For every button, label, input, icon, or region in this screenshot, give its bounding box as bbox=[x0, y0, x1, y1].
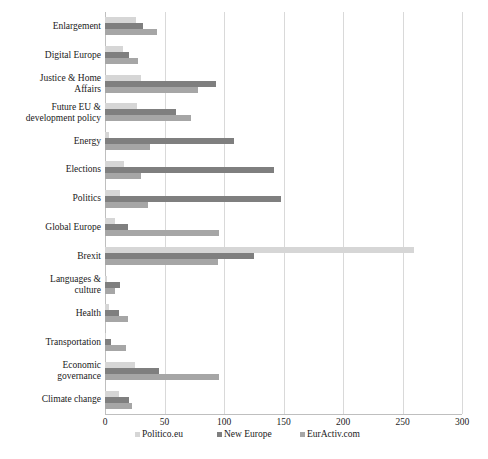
x-tick-label: 150 bbox=[264, 416, 304, 428]
gridline-300 bbox=[462, 12, 463, 414]
legend-swatch-icon bbox=[135, 432, 140, 437]
category-label: Energy bbox=[0, 136, 101, 147]
bar-group bbox=[105, 156, 462, 185]
bar-group bbox=[105, 270, 462, 299]
category-label: Brexit bbox=[0, 251, 101, 262]
category-label: Climate change bbox=[0, 394, 101, 405]
bar-group bbox=[105, 385, 462, 414]
x-tick-label: 50 bbox=[145, 416, 185, 428]
bar bbox=[105, 173, 141, 179]
bar-group bbox=[105, 357, 462, 386]
bar-group bbox=[105, 41, 462, 70]
legend-label: Politico.eu bbox=[142, 428, 183, 440]
bar bbox=[105, 87, 198, 93]
category-label: Future EU & development policy bbox=[0, 102, 101, 124]
bar bbox=[105, 316, 128, 322]
legend-label: New Europe bbox=[224, 428, 272, 440]
category-axis-labels: EnlargementDigital EuropeJustice & Home … bbox=[0, 12, 101, 414]
category-label: Digital Europe bbox=[0, 50, 101, 61]
bar-group bbox=[105, 12, 462, 41]
bar-group bbox=[105, 242, 462, 271]
bar-group bbox=[105, 213, 462, 242]
bar bbox=[105, 29, 157, 35]
x-tick-label: 0 bbox=[85, 416, 125, 428]
legend-item[interactable]: Politico.eu bbox=[135, 428, 183, 440]
bar bbox=[105, 144, 150, 150]
grouped-bar-chart: EnlargementDigital EuropeJustice & Home … bbox=[0, 0, 488, 459]
category-label: Health bbox=[0, 308, 101, 319]
bar bbox=[105, 374, 219, 380]
bar bbox=[105, 202, 148, 208]
legend-swatch-icon bbox=[217, 432, 222, 437]
x-tick-label: 250 bbox=[383, 416, 423, 428]
category-label: Economic governance bbox=[0, 360, 101, 382]
legend-item[interactable]: EurActiv.com bbox=[300, 428, 360, 440]
category-label: Global Europe bbox=[0, 222, 101, 233]
x-tick-label: 100 bbox=[204, 416, 244, 428]
x-axis-line bbox=[105, 414, 462, 415]
bar bbox=[105, 230, 219, 236]
x-tick-label: 300 bbox=[442, 416, 482, 428]
bar-group bbox=[105, 98, 462, 127]
bar bbox=[105, 403, 132, 409]
bar bbox=[105, 115, 191, 121]
legend-label: EurActiv.com bbox=[307, 428, 360, 440]
bar bbox=[105, 58, 138, 64]
category-label: Transportation bbox=[0, 337, 101, 348]
category-label: Enlargement bbox=[0, 21, 101, 32]
x-tick-label: 200 bbox=[323, 416, 363, 428]
legend-item[interactable]: New Europe bbox=[217, 428, 272, 440]
bar bbox=[105, 288, 115, 294]
category-label: Politics bbox=[0, 193, 101, 204]
category-label: Justice & Home Affairs bbox=[0, 73, 101, 95]
bar bbox=[105, 259, 218, 265]
category-label: Languages & culture bbox=[0, 274, 101, 296]
bar-group bbox=[105, 184, 462, 213]
plot-area bbox=[105, 12, 462, 414]
chart-legend: Politico.euNew EuropeEurActiv.com bbox=[105, 428, 462, 442]
legend-swatch-icon bbox=[300, 432, 305, 437]
bar-group bbox=[105, 69, 462, 98]
bar-group bbox=[105, 127, 462, 156]
bar bbox=[105, 345, 126, 351]
bar-group bbox=[105, 299, 462, 328]
category-label: Elections bbox=[0, 164, 101, 175]
bar-group bbox=[105, 328, 462, 357]
